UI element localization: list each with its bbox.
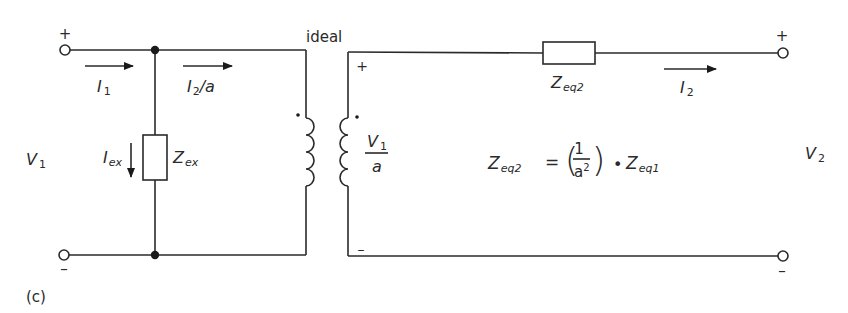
primary-minus-sign: – <box>60 260 68 278</box>
impedance-equation: Zeq2 = ( 1 a2 ) • Zeq1 <box>487 140 659 181</box>
figure-label: (c) <box>26 288 46 306</box>
secondary-wiring <box>340 42 788 261</box>
secondary-plus-sign: + <box>776 27 789 45</box>
ratio-denominator: a <box>372 157 382 176</box>
bottom-junction-dot <box>151 251 159 259</box>
primary-minus-terminal <box>59 250 69 260</box>
equation-numerator: 1 <box>574 140 584 158</box>
series-impedance-box <box>543 42 595 64</box>
i1-label: I1 <box>97 77 111 98</box>
equation-equals: = <box>545 152 559 172</box>
secondary-minus-sign: – <box>778 262 786 280</box>
equation-denominator: a2 <box>574 162 590 181</box>
secondary-polarity-dot <box>355 115 359 119</box>
primary-plus-sign: + <box>59 25 72 43</box>
excitation-impedance-box <box>143 135 167 180</box>
iex-label: Iex <box>103 148 122 169</box>
ratio-numerator: V1 <box>367 132 387 153</box>
secondary-top-wire-left <box>348 52 543 53</box>
secondary-plus-terminal <box>778 48 788 58</box>
top-junction-dot <box>151 46 159 54</box>
secondary-coil-plus-sign: + <box>356 58 368 74</box>
primary-polarity-dot <box>296 113 300 117</box>
secondary-coil <box>340 118 348 186</box>
v1-label: V1 <box>26 150 46 171</box>
primary-coil <box>306 118 314 186</box>
i2-over-a-label: I2/a <box>187 77 215 98</box>
secondary-coil-minus-sign: – <box>358 241 365 257</box>
i2-label: I2 <box>680 78 694 99</box>
equation-lhs: Zeq2 <box>487 153 521 175</box>
zex-label: Zex <box>172 148 199 169</box>
right-paren: ) <box>592 140 605 180</box>
equation-rhs: Zeq1 <box>625 153 659 175</box>
secondary-minus-terminal <box>778 251 788 261</box>
circuit-diagram: + – + – + – ideal V1 I1 I2/a Iex Zex V1 … <box>0 0 848 313</box>
equation-operator: • <box>613 155 622 174</box>
ideal-label: ideal <box>306 28 342 46</box>
v2-label: V2 <box>805 144 825 165</box>
zeq2-label: Zeq2 <box>550 73 584 94</box>
turns-ratio-label: V1 a <box>365 132 388 176</box>
primary-plus-terminal <box>60 45 70 55</box>
